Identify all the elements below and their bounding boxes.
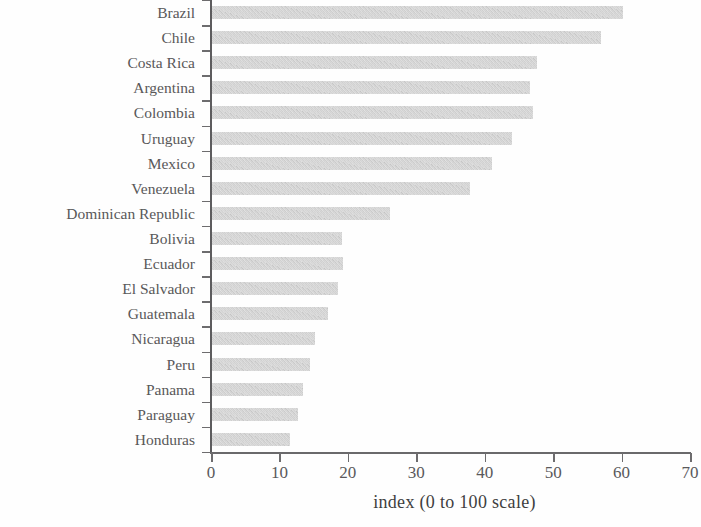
- bar: [211, 31, 601, 44]
- bar-row: [211, 226, 690, 251]
- bar: [211, 358, 310, 371]
- x-axis-tick: [690, 453, 692, 462]
- x-axis-tick: [485, 453, 487, 462]
- bar: [211, 157, 492, 170]
- bar: [211, 257, 343, 270]
- bar-row: [211, 75, 690, 100]
- x-axis-tick-label: 20: [339, 463, 356, 483]
- bar: [211, 182, 470, 195]
- category-label: Mexico: [0, 151, 203, 176]
- category-label: El Salvador: [0, 276, 203, 301]
- bar-row: [211, 301, 690, 326]
- x-axis-tick: [279, 453, 281, 462]
- category-label: Brazil: [0, 0, 203, 25]
- x-axis-tick-label: 0: [207, 463, 216, 483]
- category-label: Chile: [0, 25, 203, 50]
- bar-row: [211, 326, 690, 351]
- y-axis-line: [210, 0, 212, 453]
- bar: [211, 132, 512, 145]
- bar: [211, 282, 338, 295]
- bar: [211, 207, 390, 220]
- x-axis-line: [210, 452, 691, 454]
- x-axis-tick-label: 40: [476, 463, 493, 483]
- category-label: Peru: [0, 352, 203, 377]
- category-label: Guatemala: [0, 301, 203, 326]
- category-label: Panama: [0, 377, 203, 402]
- x-axis-tick: [553, 453, 555, 462]
- bar: [211, 106, 533, 119]
- bar-chart: BrazilChileCosta RicaArgentinaColombiaUr…: [0, 0, 701, 527]
- x-axis-tick: [622, 453, 624, 462]
- bar-row: [211, 427, 690, 452]
- category-label: Costa Rica: [0, 50, 203, 75]
- bar-row: [211, 0, 690, 25]
- plot-area: [211, 0, 690, 452]
- category-label: Honduras: [0, 427, 203, 452]
- bar-row: [211, 151, 690, 176]
- bar: [211, 81, 530, 94]
- bar-row: [211, 176, 690, 201]
- bar: [211, 433, 290, 446]
- category-label: Venezuela: [0, 176, 203, 201]
- x-axis-tick-label: 60: [613, 463, 630, 483]
- bar-row: [211, 100, 690, 125]
- x-axis-title: index (0 to 100 scale): [0, 492, 701, 513]
- x-axis-tick-label: 50: [545, 463, 562, 483]
- bar-row: [211, 126, 690, 151]
- bar-row: [211, 50, 690, 75]
- x-axis-tick: [416, 453, 418, 462]
- bar: [211, 56, 537, 69]
- bar-row: [211, 377, 690, 402]
- bar-row: [211, 25, 690, 50]
- bar: [211, 383, 303, 396]
- bar-row: [211, 251, 690, 276]
- category-label: Colombia: [0, 100, 203, 125]
- bar-row: [211, 352, 690, 377]
- x-axis-tick: [211, 453, 213, 462]
- x-axis-title-text: index (0 to 100 scale): [373, 492, 536, 512]
- bar: [211, 232, 342, 245]
- category-label: Paraguay: [0, 402, 203, 427]
- category-label: Bolivia: [0, 226, 203, 251]
- x-axis-tick-label: 70: [682, 463, 699, 483]
- x-axis-tick-label: 10: [271, 463, 288, 483]
- category-label: Argentina: [0, 75, 203, 100]
- category-label: Ecuador: [0, 251, 203, 276]
- bar: [211, 332, 315, 345]
- bar-row: [211, 201, 690, 226]
- x-axis-tick-label: 30: [408, 463, 425, 483]
- x-axis-tick: [348, 453, 350, 462]
- category-label: Nicaragua: [0, 326, 203, 351]
- bar-row: [211, 402, 690, 427]
- category-labels: BrazilChileCosta RicaArgentinaColombiaUr…: [0, 0, 203, 452]
- bar: [211, 6, 623, 19]
- bar-row: [211, 276, 690, 301]
- bar: [211, 408, 298, 421]
- bar: [211, 307, 328, 320]
- category-label: Dominican Republic: [0, 201, 203, 226]
- category-label: Uruguay: [0, 126, 203, 151]
